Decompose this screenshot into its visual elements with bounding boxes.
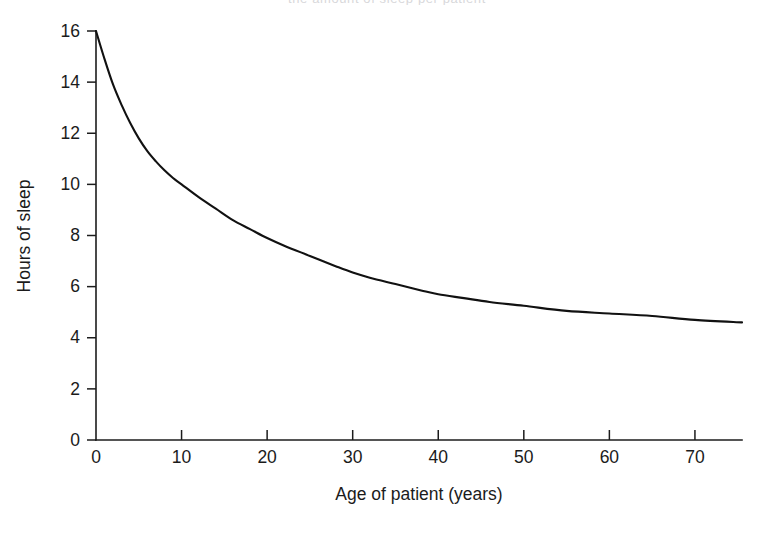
line-chart: 0246810121416 010203040506070 Age of pat…: [0, 0, 774, 540]
x-tick-label-30: 30: [343, 447, 363, 467]
y-tick-label-12: 12: [61, 123, 80, 143]
x-tick-label-70: 70: [685, 447, 705, 467]
y-tick-label-10: 10: [61, 174, 81, 194]
x-tick-label-50: 50: [514, 447, 534, 467]
y-axis-ticks: 0246810121416: [61, 21, 96, 450]
y-tick-label-6: 6: [70, 276, 80, 296]
y-axis-title: Hours of sleep: [14, 180, 34, 293]
y-tick-label-8: 8: [70, 225, 80, 245]
y-tick-label-16: 16: [61, 21, 80, 41]
y-tick-label-2: 2: [70, 379, 80, 399]
y-tick-label-14: 14: [61, 72, 81, 92]
x-tick-label-0: 0: [91, 447, 101, 467]
x-axis-ticks: 010203040506070: [91, 430, 705, 467]
x-tick-label-40: 40: [429, 447, 449, 467]
y-tick-label-0: 0: [70, 430, 80, 450]
x-tick-label-10: 10: [172, 447, 192, 467]
x-axis-title: Age of patient (years): [335, 484, 502, 504]
x-tick-label-20: 20: [257, 447, 277, 467]
y-tick-label-4: 4: [70, 327, 80, 347]
cropped-caption-sliver: the amount of sleep per patient: [0, 0, 774, 5]
sleep-curve: [96, 31, 742, 322]
sleep-vs-age-figure: the amount of sleep per patient 02468101…: [0, 0, 774, 540]
x-tick-label-60: 60: [600, 447, 620, 467]
